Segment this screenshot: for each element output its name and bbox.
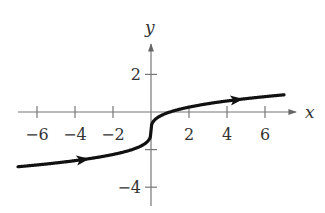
y-tick-label: −4 [117,178,141,197]
x-tick-label: −6 [25,125,49,144]
x-tick-label: 4 [222,125,232,144]
ticks: −6−4−22462−4 [25,65,270,197]
x-axis-label: x [305,102,315,122]
x-tick-label: −2 [101,125,125,144]
chart-plot: −6−4−22462−4 x y [0,0,325,213]
y-axis-label: y [144,17,155,37]
y-tick-label: 2 [131,65,141,84]
x-tick-label: 6 [260,125,270,144]
x-tick-label: 2 [184,125,194,144]
x-tick-label: −4 [63,125,87,144]
axes [18,44,296,206]
